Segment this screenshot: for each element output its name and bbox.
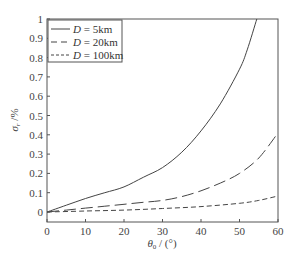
y-tick-label: 0.5 [29,110,43,122]
y-tick-label: 0.6 [29,90,43,102]
y-tick-label: 0.2 [29,167,43,179]
x-tick-label: 60 [273,225,285,237]
x-tick-label: 0 [44,225,50,237]
x-tick-label: 40 [196,225,208,237]
line-chart: 00.10.20.30.40.50.60.70.80.9101020304050… [0,0,296,260]
y-tick-label: 0.9 [29,32,43,44]
y-tick-label: 0.4 [29,129,43,141]
x-tick-label: 50 [234,225,246,237]
legend-label: D = 5km [72,23,113,35]
y-tick-label: 0.3 [29,148,43,160]
y-axis-label: σr /% [8,108,22,131]
y-tick-label: 0.8 [29,52,43,64]
y-tick-label: 0.7 [29,71,43,83]
y-tick-label: 0.1 [29,187,43,199]
x-tick-label: 20 [119,225,131,237]
x-tick-label: 10 [80,225,92,237]
legend: D = 5kmD = 20kmD = 100km [48,20,124,62]
legend-label: D = 20km [72,36,118,48]
x-tick-label: 30 [157,225,169,237]
series-line-2 [47,196,278,212]
y-tick-label: 1 [38,13,44,25]
legend-label: D = 100km [72,49,124,61]
x-axis-label: θ0 / (°) [147,237,177,251]
y-tick-label: 0 [38,206,44,218]
